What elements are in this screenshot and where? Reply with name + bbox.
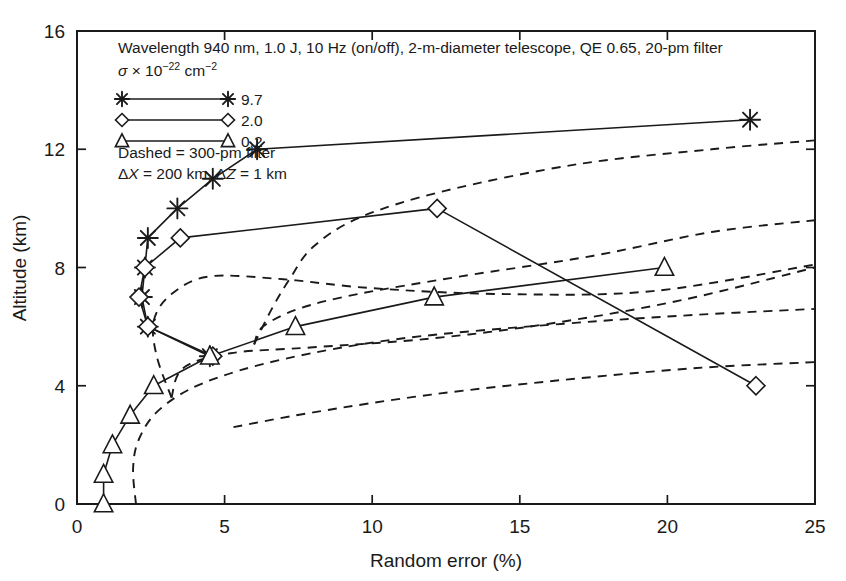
x-axis-title: Random error (%)	[370, 550, 522, 571]
series-line-0.2	[104, 268, 665, 505]
series-line-2.0	[139, 208, 756, 385]
data-point-triangle	[94, 464, 112, 482]
data-point-triangle	[94, 494, 112, 512]
data-point-diamond	[428, 199, 446, 217]
delta-z-value: = 1 km	[236, 165, 287, 182]
y-tick-label: 4	[54, 376, 65, 397]
data-point-asterisk	[221, 92, 235, 106]
sigma-times: × 10	[127, 62, 162, 79]
legend-label-9.7: 9.7	[241, 91, 263, 108]
data-point-diamond	[171, 229, 189, 247]
sigma-label: σ × 10−22 cm−2	[118, 60, 217, 79]
data-point-triangle	[221, 134, 234, 147]
x-tick-label: 20	[657, 516, 678, 537]
dashed-curve-2.0-300pm-lower	[172, 268, 816, 398]
x-tick-label: 25	[804, 516, 825, 537]
sigma-exponent: −22	[162, 60, 180, 72]
data-point-diamond	[116, 114, 129, 127]
y-tick-label: 0	[54, 494, 65, 515]
delta-x-var: X	[127, 165, 139, 182]
x-tick-label: 5	[219, 516, 230, 537]
data-point-triangle	[655, 258, 673, 276]
data-point-triangle	[145, 376, 163, 394]
annotation-line-1: Wavelength 940 nm, 1.0 J, 10 Hz (on/off)…	[118, 39, 723, 56]
data-point-asterisk	[167, 198, 187, 218]
data-point-asterisk	[740, 110, 760, 130]
sigma-unit-exponent: −2	[205, 60, 217, 72]
legend-label-2.0: 2.0	[241, 112, 263, 129]
legend-label-0.2: 0.2	[241, 133, 263, 150]
data-point-diamond	[130, 288, 148, 306]
data-point-diamond	[222, 114, 235, 127]
chart-legend: 9.72.00.2	[115, 91, 263, 150]
chart-figure: 05101520250481216 Wavelength 940 nm, 1.0…	[0, 0, 846, 581]
data-point-diamond	[747, 377, 765, 395]
x-tick-label: 15	[509, 516, 530, 537]
chart-svg: 05101520250481216 Wavelength 940 nm, 1.0…	[0, 0, 846, 581]
y-tick-label: 8	[54, 258, 65, 279]
dashed-curve-9.7-300pm	[254, 140, 815, 344]
annotation-layer: Wavelength 940 nm, 1.0 J, 10 Hz (on/off)…	[118, 39, 723, 182]
y-tick-label: 12	[44, 139, 65, 160]
sigma-unit: cm	[180, 62, 205, 79]
y-tick-label: 16	[44, 21, 65, 42]
data-point-asterisk	[138, 228, 158, 248]
x-tick-label: 10	[362, 516, 383, 537]
delta-x-symbol: Δ	[118, 165, 128, 182]
dashed-curve-0.2-300pm-lower	[234, 362, 816, 427]
x-tick-label: 0	[72, 516, 83, 537]
delta-x-value: = 200 km,	[139, 165, 216, 182]
delta-z-symbol: Δ	[216, 165, 226, 182]
delta-label: ΔX = 200 km, ΔZ = 1 km	[118, 165, 287, 182]
data-point-triangle	[115, 134, 128, 147]
data-point-triangle	[103, 435, 121, 453]
y-axis-title: Altitude (km)	[9, 215, 30, 322]
dashed-curve-0.2-300pm	[133, 309, 815, 504]
delta-z-var: Z	[225, 165, 236, 182]
plot-frame	[77, 31, 815, 504]
data-point-asterisk	[115, 92, 129, 106]
